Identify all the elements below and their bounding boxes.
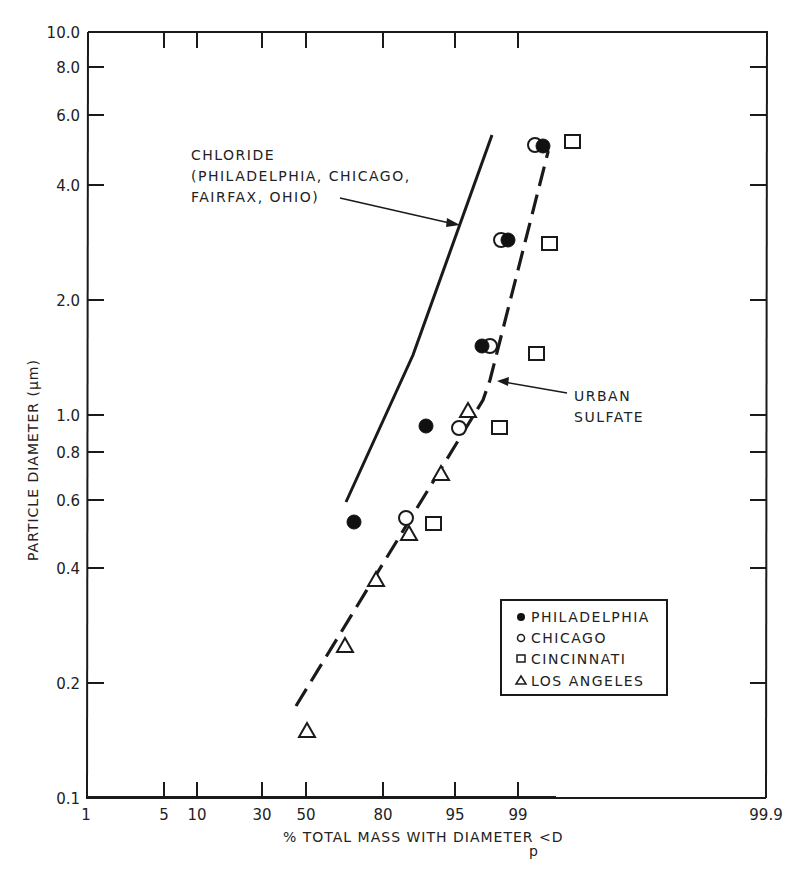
legend-filled-circle-icon <box>517 613 525 621</box>
top-axis-ticks <box>164 32 518 48</box>
arrow-head-icon <box>497 377 509 386</box>
legend-square-icon <box>517 655 525 662</box>
y-axis <box>87 32 88 798</box>
y-tick-label: 2.0 <box>56 292 80 310</box>
series-philadelphia <box>347 139 550 529</box>
legend-label-cincinnati: CINCINNATI <box>531 651 626 667</box>
y-tick-label: 10.0 <box>47 24 80 42</box>
x-axis-title: % TOTAL MASS WITH DIAMETER <D <box>283 829 564 845</box>
right-axis <box>766 32 767 798</box>
svg-text:(PHILADELPHIA, CHICAGO,: (PHILADELPHIA, CHICAGO, <box>191 168 411 184</box>
x-tick-label: 30 <box>252 806 271 824</box>
marker-filled-circle-icon <box>419 419 433 433</box>
marker-triangle-icon <box>299 723 315 737</box>
y-tick-label: 0.8 <box>56 444 80 462</box>
x-tick-label: 80 <box>373 806 392 824</box>
x-tick-label: 50 <box>296 806 315 824</box>
marker-filled-circle-icon <box>475 339 489 353</box>
marker-triangle-icon <box>337 638 353 652</box>
x-tick-label: 10 <box>187 806 206 824</box>
y-tick-label: 0.6 <box>56 492 80 510</box>
x-tick-label: 99 <box>508 806 527 824</box>
legend-label-philadelphia: PHILADELPHIA <box>531 609 650 625</box>
x-tick-label: 95 <box>445 806 464 824</box>
x-tick-label: 5 <box>159 806 169 824</box>
y-tick-label: 0.1 <box>56 790 80 808</box>
svg-text:FAIRFAX, OHIO): FAIRFAX, OHIO) <box>191 189 319 205</box>
svg-text:CHLORIDE: CHLORIDE <box>191 147 275 163</box>
y-ticks: 10.08.06.04.02.01.00.80.60.40.20.1 <box>47 24 104 808</box>
marker-square-icon <box>542 237 557 250</box>
marker-triangle-icon <box>368 572 384 586</box>
legend-open-circle-icon <box>518 635 525 642</box>
legend-label-los-angeles: LOS ANGELES <box>531 673 644 689</box>
marker-square-icon <box>492 421 507 434</box>
svg-text:URBAN: URBAN <box>574 388 631 404</box>
legend: PHILADELPHIA CHICAGO CINCINNATI LOS ANGE… <box>501 600 667 695</box>
series-cincinnati <box>426 135 580 530</box>
sulfate-annotation: URBAN SULFATE <box>497 377 644 425</box>
y-tick-label: 4.0 <box>56 177 80 195</box>
marker-square-icon <box>529 347 544 360</box>
marker-square-icon <box>565 135 580 148</box>
y-axis-title: PARTICLE DIAMETER (μm) <box>25 359 41 561</box>
y-tick-label: 6.0 <box>56 107 80 125</box>
marker-square-icon <box>426 517 441 530</box>
x-tick-label: 99.9 <box>749 806 782 824</box>
svg-text:SULFATE: SULFATE <box>574 409 644 425</box>
marker-filled-circle-icon <box>501 233 515 247</box>
marker-open-circle-icon <box>399 511 413 525</box>
x-tick-label: 1 <box>81 806 91 824</box>
legend-label-chicago: CHICAGO <box>531 630 607 646</box>
chart-canvas: 10.08.06.04.02.01.00.80.60.40.20.1 15103… <box>0 0 803 876</box>
chloride-annotation: CHLORIDE (PHILADELPHIA, CHICAGO, FAIRFAX… <box>191 147 460 227</box>
marker-filled-circle-icon <box>536 139 550 153</box>
y-tick-label: 8.0 <box>56 59 80 77</box>
marker-open-circle-icon <box>452 421 466 435</box>
marker-triangle-icon <box>433 466 449 480</box>
marker-filled-circle-icon <box>347 515 361 529</box>
chloride-line <box>346 135 492 502</box>
y-tick-label: 0.4 <box>56 560 80 578</box>
x-ticks: 1510305080959999.9 <box>81 782 782 824</box>
marker-triangle-icon <box>460 403 476 417</box>
y-tick-label: 1.0 <box>56 407 80 425</box>
y-tick-label: 0.2 <box>56 675 80 693</box>
x-axis-title-subscript: p <box>529 843 539 859</box>
